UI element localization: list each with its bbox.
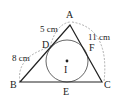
triangle-incircle-diagram: A B C D E F I 5 cm 8 cm 11 cm	[0, 0, 121, 101]
label-f: F	[89, 42, 95, 53]
measure-ac: 11 cm	[88, 32, 110, 42]
label-c: C	[104, 79, 111, 90]
label-b: B	[10, 79, 17, 90]
measure-bd: 8 cm	[12, 53, 30, 63]
label-a: A	[66, 9, 74, 20]
label-d: D	[42, 39, 49, 50]
incenter-point	[66, 60, 69, 63]
label-e: E	[63, 86, 69, 97]
measure-ad: 5 cm	[40, 24, 58, 34]
label-i: I	[64, 64, 67, 75]
